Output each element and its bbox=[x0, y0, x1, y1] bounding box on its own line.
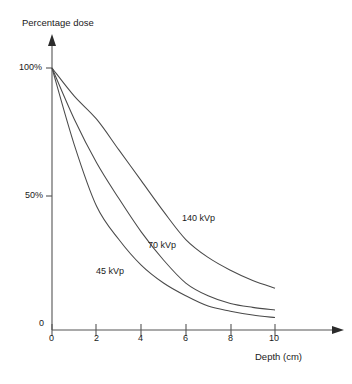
x-axis-arrow-icon bbox=[332, 326, 344, 334]
y-axis-arrow-icon bbox=[48, 34, 56, 46]
chart-canvas bbox=[0, 0, 352, 384]
x-tick-label-10: 10 bbox=[269, 334, 279, 343]
x-tick-label-4: 4 bbox=[138, 334, 143, 343]
curve-label-70-kvp: 70 kVp bbox=[148, 241, 176, 250]
y-tick-label-100: 100% bbox=[19, 63, 42, 72]
x-axis-title: Depth (cm) bbox=[255, 352, 302, 362]
dose-curve-70-kvp bbox=[52, 68, 275, 310]
curve-label-45-kvp: 45 kVp bbox=[96, 267, 124, 276]
x-tick-label-2: 2 bbox=[94, 334, 99, 343]
y-tick-label-0: 0 bbox=[39, 319, 44, 328]
curve-label-140-kvp: 140 kVp bbox=[182, 214, 215, 223]
x-tick-label-6: 6 bbox=[183, 334, 188, 343]
y-axis-title: Percentage dose bbox=[22, 18, 94, 28]
y-tick-label-50: 50% bbox=[25, 191, 43, 200]
x-tick-label-8: 8 bbox=[228, 334, 233, 343]
dose-curve-45-kvp bbox=[52, 68, 275, 318]
x-tick-label-0: 0 bbox=[49, 334, 54, 343]
percentage-depth-dose-chart: Percentage dose Depth (cm) 100% 50% 0 0 … bbox=[0, 0, 352, 384]
